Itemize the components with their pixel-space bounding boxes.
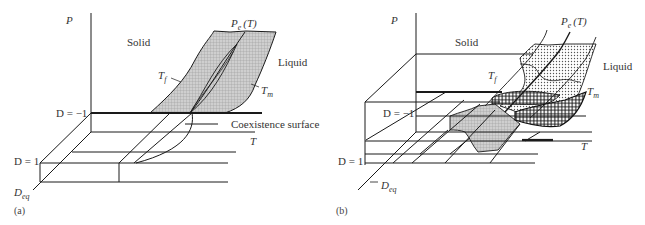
- tf-curve-label-a: Tf: [158, 69, 168, 84]
- deq-axis-label-a: Deq: [13, 186, 30, 201]
- tm-curve-label-a: Tm: [261, 84, 273, 99]
- crosshatch-region-b1: [492, 91, 560, 104]
- tf-curve-label-b: Tf: [488, 69, 498, 84]
- panel-b: P Solid Liquid Pe(T) Tf Tm D = −1 T D = …: [336, 13, 633, 217]
- panel-caption-b: (b): [336, 205, 348, 217]
- liquid-label-b: Liquid: [603, 60, 633, 72]
- deq-axis-label-b: Deq: [380, 179, 397, 194]
- d-one-label-b: D = 1: [338, 155, 363, 167]
- tm-curve-label-b: Tm: [587, 85, 599, 100]
- coexistence-surface-a: [150, 31, 276, 113]
- solid-label-b: Solid: [455, 36, 479, 48]
- phase-diagram-figure: P Solid Liquid Pe(T) Tf Tm D = −1 Coexis…: [0, 0, 645, 225]
- liquid-label-a: Liquid: [278, 56, 308, 68]
- pe-curve-label-b: Pe(T): [560, 15, 587, 30]
- t-axis-label-a: T: [250, 135, 257, 147]
- grid-region-b: [450, 104, 520, 152]
- panel-a: P Solid Liquid Pe(T) Tf Tm D = −1 Coexis…: [13, 13, 319, 217]
- p-axis-label-b: P: [390, 14, 398, 26]
- coexistence-surface-label: Coexistence surface: [231, 118, 319, 130]
- t-axis-label-b: T: [581, 140, 588, 152]
- p-axis-label-a: P: [65, 14, 73, 26]
- d-minus-one-label-a: D = −1: [56, 107, 87, 119]
- solid-label-a: Solid: [127, 36, 151, 48]
- d-one-label-a: D = 1: [14, 155, 39, 167]
- d-minus-one-label-b: D = −1: [383, 107, 414, 119]
- panel-caption-a: (a): [14, 205, 25, 217]
- pe-curve-label-a: Pe(T): [230, 17, 257, 32]
